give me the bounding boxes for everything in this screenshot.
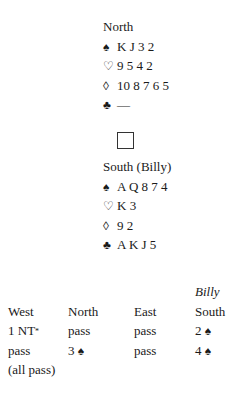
heart-icon: ♡ — [103, 197, 117, 217]
bid-east: pass — [134, 341, 156, 361]
south-hearts: ♡K 3 — [103, 196, 171, 216]
bid-west: 1 NT* — [8, 321, 39, 341]
south-diamonds-cards: 9 2 — [117, 218, 133, 233]
bid-level: 3 — [68, 343, 75, 358]
bid-west: pass — [8, 341, 30, 361]
bid-north: 3 ♠ — [68, 341, 84, 362]
north-diamonds: ◊10 8 7 6 5 — [103, 76, 169, 96]
spade-icon: ♠ — [78, 344, 84, 358]
south-label: South (Billy) — [103, 157, 171, 177]
north-hearts-cards: 9 5 4 2 — [117, 58, 153, 73]
north-spades: ♠K J 3 2 — [103, 37, 169, 57]
south-hearts-cards: K 3 — [117, 198, 136, 213]
bidding-round-2: pass 3 ♠ pass 4 ♠ — [0, 341, 252, 361]
all-pass: (all pass) — [8, 360, 55, 380]
bid-south: 2 ♠ — [195, 321, 211, 342]
bidding-header-row: West North East South — [0, 302, 252, 322]
north-hearts: ♡9 5 4 2 — [103, 56, 169, 76]
header-north: North — [68, 302, 98, 322]
north-diamonds-cards: 10 8 7 6 5 — [117, 78, 169, 93]
bid-south: 4 ♠ — [195, 341, 211, 362]
bidding-final-row: (all pass) — [0, 360, 252, 380]
bid-east: pass — [134, 321, 156, 341]
north-spades-cards: K J 3 2 — [117, 39, 154, 54]
alert-mark: * — [35, 327, 39, 336]
diamond-icon: ◊ — [103, 77, 117, 97]
club-icon: ♣ — [103, 96, 117, 116]
south-clubs: ♣A K J 5 — [103, 235, 171, 255]
north-label: North — [103, 17, 169, 37]
header-south: South — [195, 302, 225, 322]
club-icon: ♣ — [103, 236, 117, 256]
spade-icon: ♠ — [205, 324, 211, 338]
diamond-icon: ◊ — [103, 217, 117, 237]
bid-level: 4 — [195, 343, 202, 358]
heart-icon: ♡ — [103, 57, 117, 77]
spade-icon: ♠ — [103, 178, 117, 198]
south-spades-cards: A Q 8 7 4 — [117, 179, 168, 194]
bidding-round-1: 1 NT* pass pass 2 ♠ — [0, 321, 252, 341]
south-hand: South (Billy) ♠A Q 8 7 4 ♡K 3 ◊9 2 ♣A K … — [103, 157, 171, 255]
table-square-icon — [117, 132, 134, 149]
north-clubs-cards: — — [117, 97, 130, 112]
bid-text: 1 NT — [8, 323, 35, 338]
south-clubs-cards: A K J 5 — [117, 237, 156, 252]
north-hand: North ♠K J 3 2 ♡9 5 4 2 ◊10 8 7 6 5 ♣— — [103, 17, 169, 115]
bid-level: 2 — [195, 323, 202, 338]
bidding-player-note-row: Billy — [0, 282, 252, 302]
header-east: East — [134, 302, 156, 322]
spade-icon: ♠ — [205, 344, 211, 358]
player-note: Billy — [195, 282, 220, 302]
header-west: West — [8, 302, 34, 322]
spade-icon: ♠ — [103, 38, 117, 58]
south-diamonds: ◊9 2 — [103, 216, 171, 236]
north-clubs: ♣— — [103, 95, 169, 115]
south-spades: ♠A Q 8 7 4 — [103, 177, 171, 197]
bid-north: pass — [68, 321, 90, 341]
bidding-table: Billy West North East South 1 NT* pass p… — [0, 282, 252, 380]
